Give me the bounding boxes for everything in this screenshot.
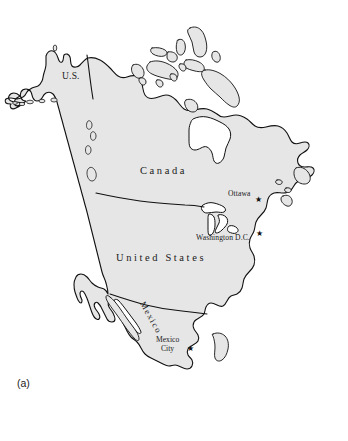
- aleutian-islet-4: [39, 99, 45, 102]
- arctic-islet-small-2: [156, 80, 163, 87]
- alexander-archipelago-island-2: [91, 132, 97, 141]
- ellesmere-island: [188, 27, 207, 57]
- arctic-islet-small-3: [170, 74, 177, 81]
- country-label-canada: Canada: [140, 165, 187, 176]
- kodiak-islet: [51, 98, 57, 102]
- north-america-map: [0, 0, 348, 441]
- anticosti-islet: [276, 180, 283, 185]
- figure-panel: U.S. Canada United States Mexico Ottawa …: [0, 0, 348, 441]
- figure-caption: (a): [17, 377, 30, 389]
- nova-scotia-island: [281, 195, 292, 206]
- prince-of-wales-island: [167, 52, 177, 62]
- alexander-archipelago-island-1: [87, 121, 93, 130]
- city-label-mexico-city-line2: City: [156, 345, 179, 354]
- arctic-islet-small-4: [212, 51, 221, 62]
- capital-star-mexico-city: ★: [187, 345, 194, 353]
- aleutian-islet-3: [13, 102, 18, 105]
- bering-islet: [53, 45, 57, 51]
- queen-charlotte-island: [86, 146, 92, 155]
- somerset-island: [179, 64, 186, 71]
- capital-star-washington-dc: ★: [256, 230, 263, 238]
- country-label-united-states: United States: [116, 252, 206, 263]
- baffin-island: [202, 70, 240, 107]
- melville-island: [151, 48, 167, 57]
- capital-star-ottawa: ★: [255, 196, 262, 204]
- devon-island: [184, 60, 204, 72]
- aleutian-islet-1: [27, 100, 34, 104]
- city-label-washington-dc: Washington D.C.: [196, 234, 250, 242]
- prince-edward-islet: [285, 188, 292, 193]
- country-label-us-alaska: U.S.: [62, 72, 80, 82]
- city-label-mexico-city: Mexico City: [156, 336, 179, 353]
- aleutian-islet-2: [19, 102, 25, 105]
- yucatan-detail-shape: [212, 333, 228, 361]
- city-label-ottawa: Ottawa: [228, 190, 251, 198]
- axel-heiberg-island: [176, 39, 185, 55]
